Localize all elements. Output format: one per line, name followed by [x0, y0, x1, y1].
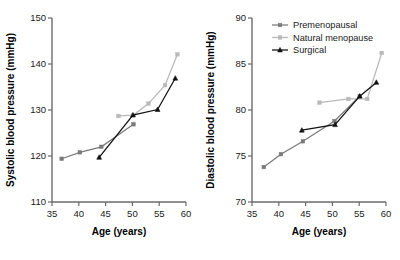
series-line — [320, 53, 382, 103]
data-point-marker — [365, 97, 369, 101]
series-surgical — [299, 80, 378, 132]
data-point-marker — [380, 51, 384, 55]
legend-item-surgical[interactable]: Surgical — [272, 45, 326, 55]
data-point-marker — [173, 76, 178, 81]
x-tick-label: 50 — [327, 208, 338, 219]
x-tick-label: 50 — [127, 208, 138, 219]
chart-svg-systolic: 110120130140150354045505560Age (years)Sy… — [0, 0, 200, 260]
x-tick-label: 35 — [47, 208, 58, 219]
y-tick-label: 130 — [30, 104, 46, 115]
data-point-marker — [78, 151, 82, 155]
y-axis-ticks: 7075808590 — [235, 12, 252, 207]
x-tick-label: 55 — [354, 208, 365, 219]
x-axis-ticks: 354045505560 — [47, 202, 192, 219]
legend-label: Premenopausal — [293, 20, 357, 30]
legend-label: Surgical — [293, 45, 326, 55]
legend: PremenopausalNatural menopauseSurgical — [272, 20, 373, 55]
x-tick-label: 45 — [100, 208, 111, 219]
legend-item-premenopausal[interactable]: Premenopausal — [272, 20, 357, 30]
chart-panel-diastolic: 7075808590354045505560Age (years)Diastol… — [200, 0, 400, 260]
data-point-marker — [318, 101, 322, 105]
y-tick-label: 150 — [30, 12, 46, 23]
series-premenopausal — [60, 122, 135, 160]
series-natural-menopause — [117, 53, 180, 118]
data-point-marker — [117, 114, 121, 118]
x-tick-label: 40 — [274, 208, 285, 219]
y-tick-label: 75 — [235, 150, 246, 161]
y-tick-label: 140 — [30, 58, 46, 69]
x-axis-title: Age (years) — [292, 226, 346, 237]
chart-svg-diastolic: 7075808590354045505560Age (years)Diastol… — [200, 0, 400, 260]
series-line — [99, 78, 175, 157]
data-point-marker — [301, 139, 305, 143]
data-point-marker — [60, 157, 64, 161]
series-line — [264, 96, 360, 167]
y-tick-label: 80 — [235, 104, 246, 115]
legend-item-natural-menopause[interactable]: Natural menopause — [272, 33, 373, 43]
axes — [52, 18, 186, 202]
data-point-marker — [279, 152, 283, 156]
y-tick-label: 85 — [235, 58, 246, 69]
series-line — [302, 82, 377, 130]
x-tick-label: 35 — [247, 208, 258, 219]
data-point-marker — [147, 102, 151, 106]
data-point-marker — [100, 145, 104, 149]
x-tick-label: 40 — [74, 208, 85, 219]
y-tick-label: 90 — [235, 12, 246, 23]
series-line — [62, 124, 134, 158]
legend-label: Natural menopause — [293, 33, 373, 43]
data-point-marker — [333, 119, 337, 123]
y-axis-title: Systolic blood pressure (mmHg) — [5, 33, 16, 187]
x-tick-label: 60 — [181, 208, 192, 219]
data-series-group — [60, 53, 179, 161]
y-axis-ticks: 110120130140150 — [30, 12, 52, 207]
y-tick-label: 120 — [30, 150, 46, 161]
series-surgical — [97, 76, 178, 160]
y-axis-title: Diastolic blood pressure (mmHg) — [205, 31, 216, 188]
x-tick-label: 60 — [381, 208, 392, 219]
data-point-marker — [347, 97, 351, 101]
y-tick-label: 110 — [31, 196, 46, 207]
y-tick-label: 70 — [235, 196, 246, 207]
series-natural-menopause — [318, 51, 384, 104]
series-premenopausal — [262, 94, 362, 168]
data-point-marker — [262, 165, 266, 169]
data-series-group — [262, 51, 384, 169]
data-point-marker — [132, 122, 136, 126]
data-point-marker — [374, 80, 379, 85]
x-tick-label: 45 — [300, 208, 311, 219]
figure-container: 110120130140150354045505560Age (years)Sy… — [0, 0, 400, 260]
data-point-marker — [176, 53, 180, 57]
x-axis-title: Age (years) — [92, 226, 146, 237]
chart-panel-systolic: 110120130140150354045505560Age (years)Sy… — [0, 0, 200, 260]
legend-marker — [278, 23, 282, 27]
data-point-marker — [163, 83, 167, 87]
x-tick-label: 55 — [154, 208, 165, 219]
legend-marker — [278, 36, 282, 40]
series-line — [118, 54, 177, 116]
x-axis-ticks: 354045505560 — [247, 202, 392, 219]
